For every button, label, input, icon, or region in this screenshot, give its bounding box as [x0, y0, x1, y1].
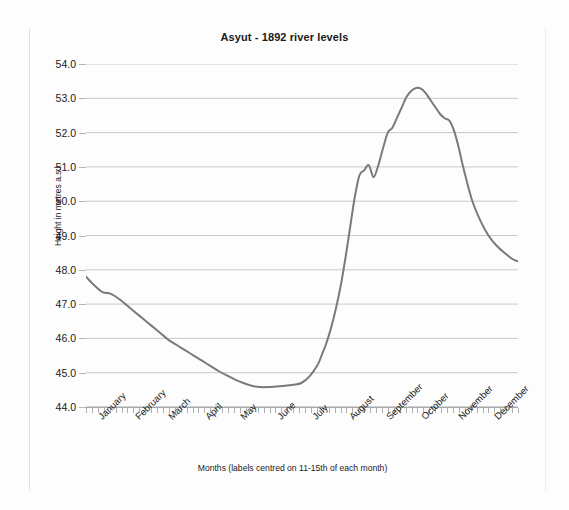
x-minor-tick: [483, 408, 484, 413]
x-minor-tick: [441, 408, 442, 413]
x-minor-tick: [157, 408, 158, 413]
x-minor-tick: [127, 408, 128, 413]
x-minor-tick: [234, 408, 235, 413]
y-tick-label: 44.0: [56, 401, 76, 413]
y-tick-label: 53.0: [56, 92, 76, 104]
x-minor-tick: [228, 408, 229, 413]
x-minor-tick: [453, 408, 454, 413]
y-tick-mark: [79, 133, 86, 134]
y-tick-mark: [79, 201, 86, 202]
y-tick-label: 54.0: [56, 58, 76, 70]
y-tick-mark: [79, 373, 86, 374]
gridlines: [86, 64, 518, 407]
chart-page: Asyut - 1892 river levels 44.045.046.047…: [0, 0, 569, 510]
x-minor-tick: [92, 408, 93, 413]
x-minor-tick: [376, 408, 377, 413]
x-minor-tick: [335, 408, 336, 413]
x-minor-tick: [341, 408, 342, 413]
y-tick-mark: [79, 338, 86, 339]
y-tick-label: 45.0: [56, 367, 76, 379]
y-tick-mark: [79, 270, 86, 271]
y-tick-label: 46.0: [56, 332, 76, 344]
x-minor-tick: [412, 408, 413, 413]
line-chart-svg: [86, 64, 518, 407]
page-right-border: [545, 28, 546, 490]
x-minor-tick: [122, 408, 123, 413]
x-minor-tick: [193, 408, 194, 413]
x-minor-tick: [299, 408, 300, 413]
y-tick-label: 47.0: [56, 298, 76, 310]
x-minor-tick: [264, 408, 265, 413]
x-minor-tick: [382, 408, 383, 413]
x-minor-tick: [417, 408, 418, 413]
x-minor-tick: [518, 408, 519, 413]
y-tick-mark: [79, 167, 86, 168]
y-tick-mark: [79, 98, 86, 99]
x-minor-tick: [447, 408, 448, 413]
y-tick-mark: [79, 304, 86, 305]
x-minor-tick: [86, 408, 87, 413]
y-axis: 44.045.046.047.048.049.050.051.052.053.0…: [0, 0, 86, 510]
x-minor-tick: [163, 408, 164, 413]
y-tick-mark: [79, 236, 86, 237]
x-minor-tick: [198, 408, 199, 413]
x-minor-tick: [370, 408, 371, 413]
y-tick-mark: [79, 407, 86, 408]
x-minor-tick: [270, 408, 271, 413]
x-minor-tick: [488, 408, 489, 413]
plot-area: [86, 64, 518, 407]
x-axis-caption: Months (labels centred on 11-15th of eac…: [0, 463, 569, 473]
y-tick-mark: [79, 64, 86, 65]
x-minor-tick: [305, 408, 306, 413]
y-axis-title: Height in metres a.s.l.: [53, 125, 63, 285]
x-minor-tick: [406, 408, 407, 413]
